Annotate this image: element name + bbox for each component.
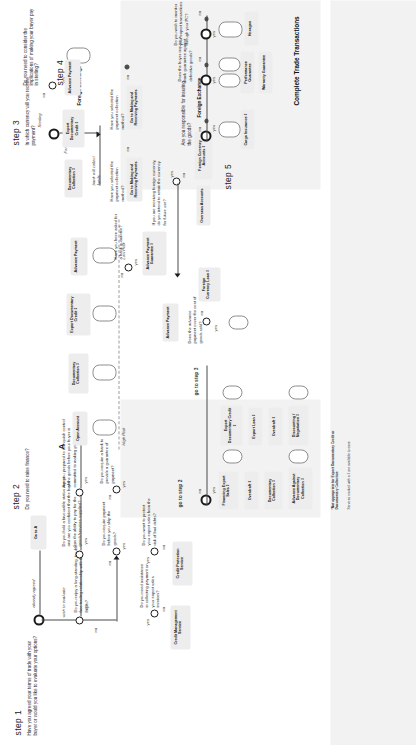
product-credit-protection: Credit Protection Service: [172, 541, 192, 585]
l-status-yes: [80, 492, 81, 550]
arrow-foreign-left: [174, 273, 180, 277]
cap-fin-1: [222, 449, 242, 463]
product-documentary-collection-2: Documentary Collection ‡: [264, 471, 282, 509]
arrow-to-payship: [113, 555, 119, 559]
marker-a: A: [56, 443, 65, 449]
cap-fin-3: [222, 385, 242, 399]
edge-payship-yes: yes: [120, 542, 125, 549]
edge-step2-yes: yes: [210, 486, 215, 493]
edge-monitor-yes: yes: [210, 30, 215, 37]
product-advance-payment: Advance Payment: [70, 237, 87, 275]
step2-title: Do you need to raise finance?: [24, 423, 30, 509]
cap-warr: [218, 57, 240, 71]
node-receiving-foreign: [172, 177, 180, 185]
edge-bankg-no: no: [106, 494, 111, 499]
edge-assist-yes: yes: [144, 618, 149, 625]
q-pay-before-ship: Do you require payment before you ship t…: [100, 497, 116, 545]
edge-advcov-no: no: [198, 310, 203, 315]
edge-go-to-step2: go to step 2: [176, 479, 182, 507]
l-receiving-foreign: [177, 183, 178, 275]
node-bank-guarantee: [112, 485, 120, 493]
edge-defective-no: no: [196, 56, 201, 61]
product-go-to-a: Go to A: [30, 515, 46, 549]
edge-rel-no: no: [92, 627, 97, 632]
edge-step5-yes: yes: [210, 124, 215, 131]
step2-main-line: [206, 365, 207, 505]
cap-adv-2: [228, 315, 248, 329]
q-selected-method-a: Have you selected the payment collection…: [108, 81, 124, 129]
product-export-loan: Export Loan ‡: [248, 407, 262, 445]
product-discounting-negotiation: Discounting / Negotiation ‡: [288, 405, 308, 445]
node-method-a: [124, 65, 129, 70]
edge-advcov-yes: yes: [212, 324, 217, 331]
edge-step2-no: no: [196, 488, 201, 493]
cap-perf: [218, 73, 240, 87]
label-foreign-exchange-2: Foreign Exchange: [196, 77, 201, 117]
step3-start-node: [48, 128, 59, 139]
product-advance-payment-2: Advance Payment: [162, 303, 178, 341]
edge-step5-no: no: [196, 126, 201, 131]
product-overseas-accounts: Overseas Accounts: [196, 185, 210, 225]
q-asked-bank-guarantee: Have you been asked for a bank guarantee…: [112, 211, 123, 259]
edge-asked-yes: yes: [132, 258, 137, 265]
step1-title: Have you agreed your terms of trade with…: [26, 635, 37, 735]
edge-bankg-yes: yes: [120, 480, 125, 487]
product-export-doc-credit: Export Documentary Credit ‡: [66, 293, 90, 335]
edge-assist-no: no: [160, 606, 165, 611]
edge-already-agreed: already agreed: [30, 579, 35, 607]
node-status-report: [75, 550, 83, 558]
node-monitor-sm: [204, 17, 209, 22]
node-protect-bad-debts: [150, 547, 158, 555]
step1-line-out: [39, 550, 40, 614]
q-receiving-foreign: If you are receiving foreign currency, d…: [150, 155, 166, 225]
cap-hexagon: [218, 21, 242, 37]
step1-label: step 1: [12, 709, 22, 735]
flowchart-canvas: step 1 Have you agreed your terms of tra…: [0, 0, 416, 745]
cap-fin-4: [288, 385, 308, 399]
step3-label: step 3: [10, 119, 20, 145]
product-hexagon: Hexagon: [244, 11, 258, 45]
label-bank-collect: bank will collect funds: [90, 149, 100, 185]
product-overdraft-1: Overdraft ‡: [244, 471, 258, 509]
edge-asked-no: no: [118, 272, 123, 277]
node-defective-sm: [204, 63, 209, 68]
q-monitor-pc: Do you wish to monitor your export trans…: [172, 0, 188, 45]
step5-label: step 5: [222, 163, 232, 189]
cap-open-account: [92, 419, 116, 435]
node-step5-sm: [204, 119, 209, 124]
node-monitor-pc: [200, 28, 211, 39]
product-cargo-insurance: Cargo Insurance ‡: [240, 109, 254, 149]
step1-line-down: [41, 620, 76, 621]
node-pay-before-ship: [112, 547, 120, 555]
product-credit-management: Credit Management Service: [170, 605, 190, 649]
edge-go-to-step3: go to step 3: [192, 367, 198, 395]
product-documentary-collection: Documentary Collection ‡: [68, 353, 88, 393]
edge-wish-evaluate: wish to evaluate: [60, 587, 65, 617]
edge-status-yes: yes: [82, 537, 87, 544]
cap-fin-2: [288, 449, 308, 463]
edge-rel-yes: yes: [82, 603, 87, 610]
edge-defective-yes: yes: [210, 76, 215, 83]
edge-relinq-yes: yes: [82, 476, 87, 483]
product-go-making-receiving-a: Go to Making and Receiving Payments: [126, 85, 142, 129]
edge-protect-no: no: [160, 544, 165, 549]
edge-monitor-no: no: [196, 10, 201, 15]
arrow-step3-down: [96, 131, 100, 137]
product-financing-export-sales: Financing Export Sales ‡: [218, 471, 238, 509]
product-export-doc-credit-3: Export Documentary Credit ‡: [62, 109, 84, 147]
terminus-label: Complete Trade Transactions: [292, 16, 299, 105]
cap-cargo: [218, 121, 240, 137]
l-no-to-payship: [116, 557, 117, 621]
edge-step4-no: no: [40, 92, 45, 97]
product-overdraft-2: Overdraft ‡: [268, 407, 282, 445]
cap-export-doc-credit: [92, 305, 116, 321]
product-doc-collection-3: Documentary Collection ‡: [64, 159, 82, 197]
edge-method-a-no: no: [124, 74, 129, 79]
step2-label: step 2: [10, 483, 20, 509]
edge-foreign-no: no: [180, 172, 185, 177]
label-high-risk: High Risk: [120, 427, 125, 445]
band-step1: [330, 0, 416, 745]
product-foreign-currency-loan: Foreign Currency Loan ‡: [198, 267, 220, 301]
q-assistance: Do you need assistance in collecting pay…: [138, 559, 159, 607]
edge-payship-no: no: [106, 560, 111, 565]
